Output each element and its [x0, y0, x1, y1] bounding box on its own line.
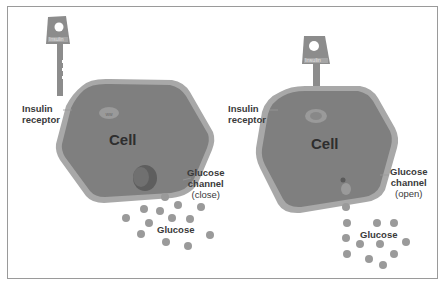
cell-label-right: Cell: [311, 135, 339, 152]
diagram-canvas: ww: [0, 0, 446, 290]
label-line: channel: [187, 178, 225, 189]
label-line: receptor: [228, 114, 266, 125]
channel-state: (close): [187, 189, 225, 200]
key-label-right: Insulin: [305, 57, 321, 63]
glucose-label-left: Glucose: [157, 224, 195, 235]
label-line: Glucose: [390, 166, 428, 177]
insulin-receptor-label-right: Insulin receptor: [228, 103, 266, 125]
label-line: Insulin: [228, 103, 266, 114]
cell-label-left: Cell: [109, 131, 137, 148]
glucose-label-right: Glucose: [360, 229, 398, 240]
channel-state: (open): [390, 188, 428, 199]
insulin-key-icon-left: [46, 16, 70, 96]
insulin-key-icon-right: [302, 36, 330, 90]
insulin-receptor-label-left: Insulin receptor: [22, 103, 60, 125]
label-line: Glucose: [187, 167, 225, 178]
glucose-molecules-left: [122, 193, 214, 250]
label-line: channel: [390, 177, 428, 188]
glucose-channel-label-left: Glucose channel (close): [187, 167, 225, 200]
label-line: Insulin: [22, 103, 60, 114]
label-line: receptor: [22, 114, 60, 125]
svg-text:ww: ww: [105, 111, 113, 117]
glucose-channel-label-right: Glucose channel (open): [390, 166, 428, 199]
key-label-left: Insulin: [49, 36, 63, 42]
glucose-molecules-right: [342, 219, 410, 269]
